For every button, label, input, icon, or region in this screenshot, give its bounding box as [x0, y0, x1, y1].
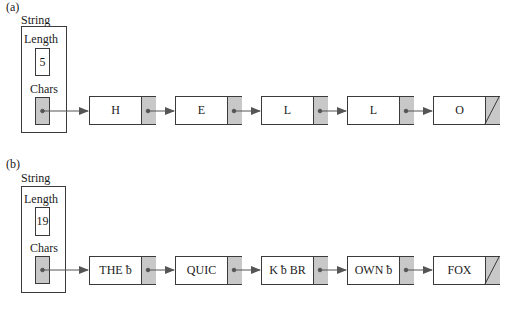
node-data: L: [348, 97, 399, 124]
part-b-record-title: String: [21, 172, 50, 184]
node-data: O: [434, 97, 485, 124]
next-pointer-field: [313, 97, 328, 124]
next-pointer-field: [399, 257, 414, 284]
char-node-a-4: L: [347, 96, 414, 125]
length-label-b: Length: [24, 193, 58, 205]
next-pointer-field: [141, 97, 156, 124]
part-a-record-title: String: [21, 14, 50, 26]
length-value-box-b: 19: [35, 207, 50, 236]
char-node-a-1: H: [89, 96, 156, 125]
length-value-a: 5: [40, 55, 46, 70]
char-node-b-1: THE ƀ: [89, 256, 156, 285]
char-node-a-2: E: [175, 96, 242, 125]
char-node-b-3: K ƀ BR: [261, 256, 328, 285]
length-value-box-a: 5: [35, 48, 50, 76]
next-pointer-field: [227, 97, 242, 124]
char-node-a-3: L: [261, 96, 328, 125]
chars-label-b: Chars: [30, 242, 58, 254]
node-data: QUIC: [176, 257, 227, 284]
part-a-label: (a): [6, 1, 19, 13]
chars-pointer-field-b: [35, 256, 50, 284]
char-node-b-2: QUIC: [175, 256, 242, 285]
next-pointer-field: [227, 257, 242, 284]
char-node-a-5: O: [433, 96, 500, 125]
node-data: OWN ƀ: [348, 257, 399, 284]
length-label-a: Length: [24, 33, 58, 45]
node-data: K ƀ BR: [262, 257, 313, 284]
chars-label-a: Chars: [30, 83, 58, 95]
node-data: E: [176, 97, 227, 124]
node-data: FOX: [434, 257, 485, 284]
char-node-b-4: OWN ƀ: [347, 256, 414, 285]
null-pointer-field: [485, 257, 500, 284]
next-pointer-field: [399, 97, 414, 124]
chars-pointer-field-a: [35, 97, 50, 125]
node-data: THE ƀ: [90, 257, 141, 284]
null-pointer-field: [485, 97, 500, 124]
length-value-b: 19: [37, 214, 49, 229]
char-node-b-5: FOX: [433, 256, 500, 285]
next-pointer-field: [313, 257, 328, 284]
next-pointer-field: [141, 257, 156, 284]
node-data: H: [90, 97, 141, 124]
part-b-label: (b): [6, 158, 20, 170]
node-data: L: [262, 97, 313, 124]
